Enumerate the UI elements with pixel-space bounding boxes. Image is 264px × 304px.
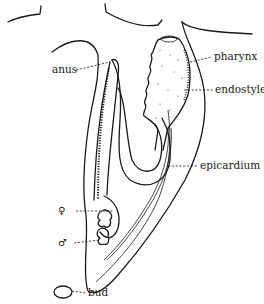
zooid-diagram: anus pharynx endostyle epicardium ♀ ♂ bu…	[0, 0, 264, 304]
label-female: ♀	[58, 205, 65, 216]
rectum-outer	[107, 60, 119, 195]
tunic-outline-left	[8, 6, 41, 22]
ovary	[98, 210, 112, 227]
anus-leader	[76, 62, 110, 70]
male-leader	[74, 240, 100, 243]
tunic-outline-right	[182, 22, 252, 34]
label-anus: anus	[52, 63, 77, 75]
epicardium-line-a	[104, 128, 168, 260]
label-epicardium: epicardium	[200, 159, 260, 171]
pharynx-leader	[190, 57, 212, 62]
testis	[97, 228, 109, 245]
bud-shape	[54, 286, 72, 298]
gut-loop-inner	[118, 88, 162, 171]
bud-leader	[72, 291, 86, 293]
tunic-outline-middle	[105, 4, 162, 26]
gut-loop-outer	[112, 60, 170, 185]
gonad-sac	[100, 196, 119, 238]
body-wall-left	[52, 41, 98, 293]
label-male: ♂	[58, 237, 67, 248]
pharynx-stipple	[155, 49, 186, 126]
label-bud: bud	[88, 286, 108, 298]
label-pharynx: pharynx	[214, 50, 257, 62]
label-endostyle: endostyle	[215, 83, 264, 95]
diagram-canvas: anus pharynx endostyle epicardium ♀ ♂ bu…	[0, 0, 264, 304]
pharynx-outline	[144, 37, 190, 150]
